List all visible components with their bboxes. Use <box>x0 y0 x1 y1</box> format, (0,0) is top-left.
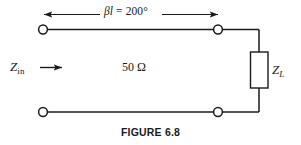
input-impedance-label: Zin <box>10 60 25 76</box>
circuit-schematic <box>0 0 301 145</box>
load-impedance-subscript: L <box>279 69 284 79</box>
terminal-top-left <box>39 25 48 34</box>
dimension-equals: = <box>113 5 126 17</box>
characteristic-impedance-label: 50 Ω <box>122 61 146 73</box>
figure-caption: FIGURE 6.8 <box>0 126 301 138</box>
terminal-top-right <box>214 25 223 34</box>
dimension-symbol: βl <box>104 5 113 17</box>
load-impedance-label: ZL <box>272 63 284 79</box>
load-impedance-box <box>251 52 269 88</box>
transmission-line-figure: βl = 200° Zin 50 Ω ZL FIGURE 6.8 <box>0 0 301 145</box>
input-impedance-subscript: in <box>17 66 24 76</box>
dimension-label: βl = 200° <box>104 6 148 18</box>
terminal-bottom-right <box>214 108 223 117</box>
terminal-bottom-left <box>39 108 48 117</box>
dimension-value: 200° <box>126 5 148 17</box>
